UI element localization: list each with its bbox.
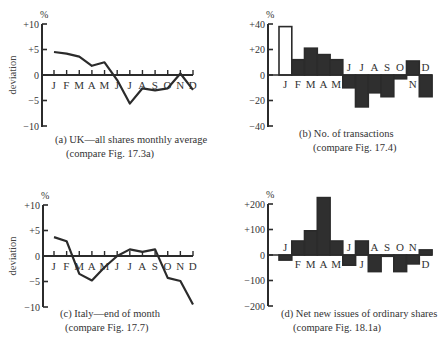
month-label: J bbox=[347, 61, 352, 73]
unit-label: % bbox=[266, 9, 274, 20]
unit-label: % bbox=[40, 9, 48, 20]
month-label: M bbox=[99, 79, 109, 91]
month-label: M bbox=[331, 258, 341, 270]
month-label: M bbox=[306, 258, 316, 270]
y-tick-label: +100 bbox=[244, 224, 265, 235]
y-axis-label: deviation bbox=[7, 236, 18, 276]
month-label: A bbox=[88, 260, 96, 272]
y-tick-label: 0 bbox=[34, 70, 39, 81]
y-tick-label: +10 bbox=[24, 200, 40, 211]
bar-M bbox=[330, 241, 343, 255]
chart-a: +10+50−5−10%deviationJFMAMJJASOND(a) UK—… bbox=[7, 9, 208, 160]
month-label: J bbox=[359, 258, 364, 270]
month-label: O bbox=[396, 241, 404, 253]
y-tick-label: +5 bbox=[29, 225, 40, 236]
month-label: M bbox=[331, 78, 341, 90]
month-label: F bbox=[295, 78, 302, 90]
month-label: F bbox=[63, 79, 70, 91]
chart-subtitle: (compare Fig. 17.3a) bbox=[66, 148, 155, 160]
chart-subtitle: (compare Fig. 18.1a) bbox=[293, 322, 382, 334]
y-tick-label: +200 bbox=[244, 199, 265, 210]
y-tick-label: −100 bbox=[244, 275, 265, 286]
unit-label: % bbox=[41, 190, 49, 201]
month-label: M bbox=[74, 79, 84, 91]
data-line bbox=[54, 52, 193, 104]
month-label: J bbox=[283, 241, 288, 253]
bar-J bbox=[356, 241, 369, 255]
chart-title: (b) No. of transactions bbox=[299, 128, 393, 140]
month-label: J bbox=[347, 241, 352, 253]
bar-F bbox=[292, 60, 305, 75]
month-label: A bbox=[319, 78, 327, 90]
month-label: N bbox=[176, 260, 184, 272]
bar-O bbox=[394, 255, 407, 272]
y-tick-label: −200 bbox=[244, 301, 265, 312]
y-axis-label: deviation bbox=[7, 55, 18, 95]
y-tick-label: −40 bbox=[249, 121, 265, 132]
bar-D bbox=[419, 250, 432, 255]
month-label: J bbox=[52, 260, 57, 272]
chart-subtitle: (compare Fig. 17.7) bbox=[65, 322, 149, 334]
y-tick-label: 0 bbox=[260, 70, 265, 81]
bar-F bbox=[292, 241, 305, 255]
month-label: F bbox=[63, 260, 70, 272]
y-tick-label: −5 bbox=[28, 95, 39, 106]
chart-d: +200+1000−100−200%JFMAMJJASOND(d) Net ne… bbox=[244, 189, 437, 334]
bar-D bbox=[419, 75, 432, 97]
y-tick-label: −10 bbox=[23, 121, 39, 132]
bar-S bbox=[381, 75, 394, 97]
chart-title: (a) UK—all shares monthly average bbox=[55, 134, 208, 146]
bar-A bbox=[368, 255, 381, 272]
month-label: F bbox=[295, 258, 302, 270]
bar-J bbox=[356, 75, 369, 107]
bar-N bbox=[407, 61, 420, 75]
y-tick-label: +20 bbox=[249, 44, 265, 55]
bar-J bbox=[279, 27, 292, 75]
month-label: N bbox=[409, 78, 417, 90]
month-label: A bbox=[319, 258, 327, 270]
month-label: S bbox=[384, 241, 391, 253]
bar-A bbox=[368, 75, 381, 93]
bar-A bbox=[317, 198, 330, 255]
bar-M bbox=[305, 48, 318, 75]
y-tick-label: −10 bbox=[24, 302, 40, 313]
bar-N bbox=[407, 255, 420, 264]
month-label: A bbox=[138, 260, 146, 272]
unit-label: % bbox=[266, 189, 274, 200]
y-tick-label: 0 bbox=[35, 251, 40, 262]
bar-M bbox=[330, 60, 343, 75]
bar-A bbox=[317, 55, 330, 75]
month-label: D bbox=[421, 258, 429, 270]
y-tick-label: +40 bbox=[249, 19, 265, 30]
month-label: A bbox=[370, 241, 378, 253]
bar-J bbox=[279, 255, 292, 260]
bar-J bbox=[343, 255, 356, 265]
y-tick-label: 0 bbox=[260, 250, 265, 261]
chart-b: +40+200−20−40%JFMAMJJASOND(b) No. of tra… bbox=[249, 9, 432, 154]
y-tick-label: +5 bbox=[28, 44, 39, 55]
month-label: A bbox=[370, 61, 378, 73]
month-label: J bbox=[283, 78, 288, 90]
month-label: M bbox=[306, 78, 316, 90]
chart-title: (c) Italy—end of month bbox=[60, 308, 161, 320]
month-label: N bbox=[409, 241, 417, 253]
month-label: J bbox=[127, 260, 132, 272]
bar-J bbox=[343, 75, 356, 88]
month-label: D bbox=[189, 260, 197, 272]
month-label: S bbox=[384, 61, 391, 73]
month-label: A bbox=[88, 79, 96, 91]
y-tick-label: −5 bbox=[29, 276, 40, 287]
month-label: J bbox=[52, 79, 57, 91]
month-label: O bbox=[396, 61, 404, 73]
month-label: J bbox=[359, 61, 364, 73]
month-label: J bbox=[115, 260, 120, 272]
y-tick-label: −20 bbox=[249, 95, 265, 106]
chart-c: +10+50−5−10%deviationJFMAMJJASOND(c) Ita… bbox=[7, 190, 197, 334]
month-label: N bbox=[176, 79, 184, 91]
month-label: J bbox=[127, 79, 132, 91]
figure-canvas: +10+50−5−10%deviationJFMAMJJASOND(a) UK—… bbox=[0, 0, 441, 338]
y-tick-label: +10 bbox=[23, 19, 39, 30]
chart-title: (d) Net new issues of ordinary shares bbox=[281, 308, 437, 320]
chart-subtitle: (compare Fig. 17.4) bbox=[313, 142, 397, 154]
month-label: S bbox=[152, 260, 159, 272]
